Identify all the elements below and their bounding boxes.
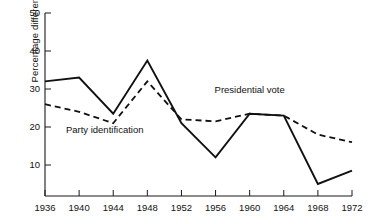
series-line-presidential-vote xyxy=(45,61,352,185)
y-tick-label: 20 xyxy=(29,121,40,132)
y-tick-label: 50 xyxy=(29,7,40,18)
x-tick-label: 1956 xyxy=(205,202,226,213)
x-tick-label: 1944 xyxy=(103,202,124,213)
y-axis-ticks: 1020304050 xyxy=(29,7,51,170)
x-tick-label: 1936 xyxy=(34,202,55,213)
x-tick-label: 1972 xyxy=(341,202,362,213)
x-tick-label: 1964 xyxy=(273,202,294,213)
y-tick-label: 40 xyxy=(29,45,40,56)
x-tick-label: 1960 xyxy=(239,202,260,213)
series-annotation-label: Party identification xyxy=(66,124,144,135)
y-tick-label: 10 xyxy=(29,159,40,170)
x-axis-ticks: 1936194019441948195219561960196419681972 xyxy=(34,190,362,213)
line-chart-plot: 1020304050 19361940194419481952195619601… xyxy=(0,0,370,223)
series-annotations: Presidential voteParty identification xyxy=(66,84,285,135)
y-tick-label: 30 xyxy=(29,83,40,94)
x-tick-label: 1968 xyxy=(307,202,328,213)
x-tick-label: 1948 xyxy=(137,202,158,213)
x-tick-label: 1952 xyxy=(171,202,192,213)
x-tick-label: 1940 xyxy=(69,202,90,213)
series-annotation-label: Presidential vote xyxy=(215,84,285,95)
chart-figure: Percentage difference 1020304050 1936194… xyxy=(0,0,370,223)
data-series-group xyxy=(45,61,352,185)
